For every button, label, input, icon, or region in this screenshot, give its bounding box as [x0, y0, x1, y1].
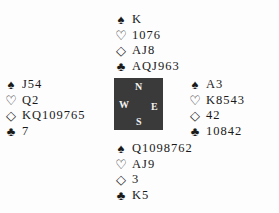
north-hearts-cards: 1076: [132, 28, 161, 44]
south-hearts-cards: AJ9: [132, 157, 155, 173]
diamond-icon: ◇: [114, 172, 128, 188]
west-hand: ♠ J54 ♡ Q2 ◇ KQ109765 ♣ 7: [4, 77, 86, 139]
north-hand: ♠ K ♡ 1076 ◇ AJ8 ♣ AQJ963: [114, 12, 180, 74]
heart-icon: ♡: [188, 93, 202, 109]
north-diamonds: ◇ AJ8: [114, 43, 180, 59]
compass-box: N W E S: [114, 78, 163, 130]
north-hearts: ♡ 1076: [114, 28, 180, 44]
east-diamonds-cards: 42: [206, 108, 221, 124]
heart-icon: ♡: [4, 93, 18, 109]
north-spades: ♠ K: [114, 12, 180, 28]
south-diamonds: ◇ 3: [114, 172, 193, 188]
south-clubs: ♣ K5: [114, 188, 193, 204]
south-diamonds-cards: 3: [132, 172, 139, 188]
west-clubs-cards: 7: [22, 124, 29, 140]
east-spades: ♠ A3: [188, 77, 245, 93]
west-diamonds: ◇ KQ109765: [4, 108, 86, 124]
west-clubs: ♣ 7: [4, 124, 86, 140]
north-clubs-cards: AQJ963: [132, 59, 180, 75]
club-icon: ♣: [188, 124, 202, 140]
spade-icon: ♠: [114, 141, 128, 157]
diamond-icon: ◇: [188, 108, 202, 124]
diamond-icon: ◇: [4, 108, 18, 124]
spade-icon: ♠: [114, 12, 128, 28]
south-spades: ♠ Q1098762: [114, 141, 193, 157]
east-clubs: ♣ 10842: [188, 124, 245, 140]
west-hearts: ♡ Q2: [4, 93, 86, 109]
west-hearts-cards: Q2: [22, 93, 39, 109]
spade-icon: ♠: [4, 77, 18, 93]
west-spades: ♠ J54: [4, 77, 86, 93]
compass-east: E: [151, 101, 158, 112]
north-diamonds-cards: AJ8: [132, 43, 155, 59]
east-clubs-cards: 10842: [206, 124, 242, 140]
east-hand: ♠ A3 ♡ K8543 ◇ 42 ♣ 10842: [188, 77, 245, 139]
north-spades-cards: K: [132, 12, 142, 28]
east-spades-cards: A3: [206, 77, 223, 93]
east-hearts: ♡ K8543: [188, 93, 245, 109]
south-hand: ♠ Q1098762 ♡ AJ9 ◇ 3 ♣ K5: [114, 141, 193, 203]
west-spades-cards: J54: [22, 77, 42, 93]
diamond-icon: ◇: [114, 43, 128, 59]
south-clubs-cards: K5: [132, 188, 149, 204]
south-spades-cards: Q1098762: [132, 141, 193, 157]
compass-south: S: [136, 116, 142, 127]
club-icon: ♣: [114, 188, 128, 204]
club-icon: ♣: [4, 124, 18, 140]
north-clubs: ♣ AQJ963: [114, 59, 180, 75]
spade-icon: ♠: [188, 77, 202, 93]
east-diamonds: ◇ 42: [188, 108, 245, 124]
heart-icon: ♡: [114, 157, 128, 173]
east-hearts-cards: K8543: [206, 93, 245, 109]
compass-north: N: [135, 81, 142, 92]
club-icon: ♣: [114, 59, 128, 75]
west-diamonds-cards: KQ109765: [22, 108, 86, 124]
compass-west: W: [119, 99, 129, 110]
heart-icon: ♡: [114, 28, 128, 44]
south-hearts: ♡ AJ9: [114, 157, 193, 173]
